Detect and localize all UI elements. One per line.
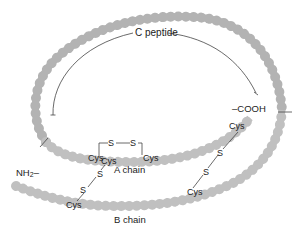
nh2-text: NH [16, 167, 30, 178]
cys-a11-label: Cys [143, 154, 159, 163]
cys-b19-label: Cys [187, 188, 203, 197]
sulfur-a7: S [97, 170, 103, 179]
cys-a20-label: Cys [229, 122, 245, 131]
cys-a7-label: Cys [101, 157, 117, 166]
sulfur-b19: S [203, 168, 209, 177]
cooh-terminus-label: –COOH [232, 104, 266, 114]
sulfur-b7: S [80, 186, 86, 195]
sulfur-a20: S [217, 149, 223, 158]
b-chain-label: B chain [114, 215, 146, 225]
cys-b7-label: Cys [66, 201, 82, 210]
nh2-dash: – [34, 167, 39, 178]
c-peptide-label: C peptide [135, 28, 178, 38]
a-chain-label: A chain [114, 165, 145, 175]
sulfur-a11: S [130, 139, 136, 148]
sulfur-a6: S [108, 139, 114, 148]
nh2-terminus-label: NH2– [16, 168, 39, 178]
